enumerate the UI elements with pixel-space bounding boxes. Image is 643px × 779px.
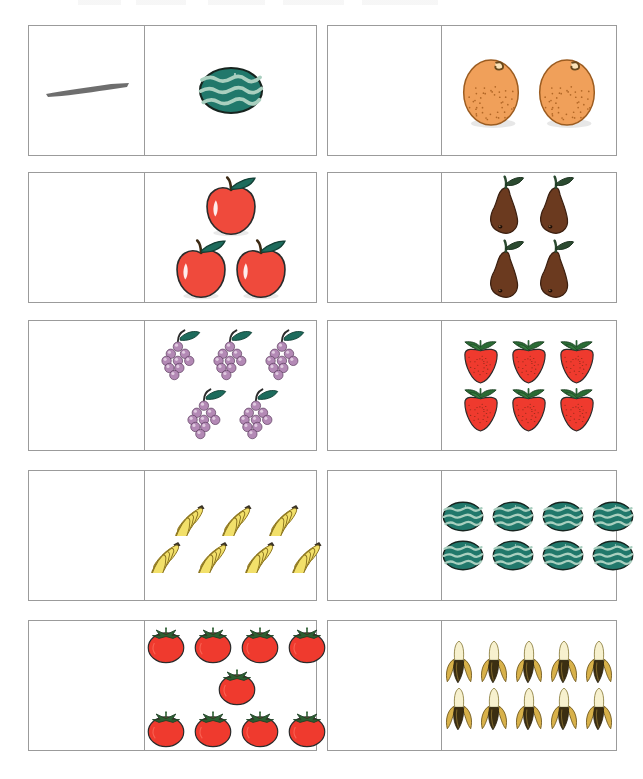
apple-icon bbox=[232, 239, 290, 300]
fruit-row bbox=[443, 639, 615, 685]
counting-card-10 bbox=[327, 620, 617, 751]
tomato-icon bbox=[145, 708, 187, 748]
picture-box-peeled-banana-10 bbox=[442, 621, 616, 750]
answer-box-3[interactable] bbox=[29, 173, 145, 302]
picture-box-orange-2 bbox=[442, 26, 616, 155]
fruit-row bbox=[216, 666, 258, 706]
bananas-icon bbox=[169, 499, 214, 536]
fruit-row bbox=[155, 328, 307, 385]
picture-box-strawberry-6 bbox=[442, 321, 616, 450]
counting-card-8 bbox=[327, 470, 617, 601]
watermelon-icon bbox=[492, 540, 534, 571]
fruit-row bbox=[145, 536, 331, 573]
tomato-icon bbox=[216, 666, 258, 706]
counting-card-4 bbox=[327, 172, 617, 303]
fruit-row bbox=[443, 686, 615, 732]
grapes-icon bbox=[233, 387, 281, 444]
grapes-icon bbox=[207, 328, 255, 385]
picture-box-bananas-7 bbox=[145, 471, 331, 600]
orange-icon bbox=[536, 52, 598, 130]
watermelon-icon bbox=[492, 501, 534, 532]
picture-box-watermelon-8 bbox=[442, 471, 634, 600]
peeled-banana-icon bbox=[478, 686, 510, 732]
peeled-banana-icon bbox=[443, 639, 475, 685]
fruit-row bbox=[145, 708, 328, 748]
watermelon-icon bbox=[592, 540, 634, 571]
strawberry-icon bbox=[459, 386, 503, 434]
answer-box-7[interactable] bbox=[29, 471, 145, 600]
fruit-row bbox=[482, 239, 576, 301]
strawberry-icon bbox=[507, 338, 551, 386]
grapes-icon bbox=[181, 387, 229, 444]
answer-box-10[interactable] bbox=[328, 621, 442, 750]
counting-card-2 bbox=[327, 25, 617, 156]
bananas-icon bbox=[192, 536, 237, 573]
answer-box-8[interactable] bbox=[328, 471, 442, 600]
counting-card-3 bbox=[28, 172, 317, 303]
peeled-banana-icon bbox=[443, 686, 475, 732]
picture-box-apple-3 bbox=[145, 173, 316, 302]
orange-icon bbox=[460, 52, 522, 130]
answer-box-9[interactable] bbox=[29, 621, 145, 750]
answer-box-2[interactable] bbox=[328, 26, 442, 155]
answer-box-5[interactable] bbox=[29, 321, 145, 450]
fruit-row bbox=[460, 52, 598, 130]
counting-card-9 bbox=[28, 620, 317, 751]
peeled-banana-icon bbox=[478, 639, 510, 685]
picture-box-tomato-9 bbox=[145, 621, 328, 750]
tomato-icon bbox=[239, 624, 281, 664]
picture-box-watermelon-1 bbox=[145, 26, 316, 155]
peeled-banana-icon bbox=[583, 639, 615, 685]
apple-icon bbox=[202, 176, 260, 237]
counting-card-7 bbox=[28, 470, 317, 601]
bananas-icon bbox=[286, 536, 331, 573]
watermelon-icon bbox=[542, 501, 584, 532]
fruit-row bbox=[181, 387, 281, 444]
counting-card-1 bbox=[28, 25, 317, 156]
peeled-banana-icon bbox=[583, 686, 615, 732]
strawberry-icon bbox=[555, 386, 599, 434]
apple-icon bbox=[172, 239, 230, 300]
tomato-icon bbox=[286, 624, 328, 664]
fruit-row bbox=[202, 176, 260, 237]
fruit-row bbox=[169, 499, 308, 536]
fruit-row bbox=[442, 540, 634, 571]
pencil-dash-mark bbox=[41, 78, 133, 104]
fruit-row bbox=[198, 66, 264, 115]
grapes-icon bbox=[259, 328, 307, 385]
tomato-icon bbox=[192, 708, 234, 748]
strawberry-icon bbox=[459, 338, 503, 386]
picture-box-pear-4 bbox=[442, 173, 616, 302]
peeled-banana-icon bbox=[548, 686, 580, 732]
pear-icon bbox=[532, 175, 576, 237]
counting-card-6 bbox=[327, 320, 617, 451]
pear-icon bbox=[482, 239, 526, 301]
answer-box-4[interactable] bbox=[328, 173, 442, 302]
peeled-banana-icon bbox=[513, 686, 545, 732]
fruit-row bbox=[442, 501, 634, 532]
grapes-icon bbox=[155, 328, 203, 385]
bananas-icon bbox=[145, 536, 190, 573]
tomato-icon bbox=[192, 624, 234, 664]
bananas-icon bbox=[216, 499, 261, 536]
watermelon-icon bbox=[442, 540, 484, 571]
bananas-icon bbox=[239, 536, 284, 573]
counting-card-5 bbox=[28, 320, 317, 451]
watermelon-icon bbox=[198, 66, 264, 115]
pear-icon bbox=[532, 239, 576, 301]
fruit-row bbox=[145, 624, 328, 664]
worksheet-sheet bbox=[0, 0, 643, 779]
bananas-icon bbox=[263, 499, 308, 536]
watermelon-icon bbox=[442, 501, 484, 532]
peeled-banana-icon bbox=[548, 639, 580, 685]
answer-box-6[interactable] bbox=[328, 321, 442, 450]
fruit-row bbox=[459, 338, 599, 386]
watermelon-icon bbox=[592, 501, 634, 532]
picture-box-grapes-5 bbox=[145, 321, 316, 450]
tomato-icon bbox=[239, 708, 281, 748]
watermelon-icon bbox=[542, 540, 584, 571]
worksheet-grid bbox=[0, 0, 643, 779]
answer-box-1[interactable] bbox=[29, 26, 145, 155]
fruit-row bbox=[459, 386, 599, 434]
peeled-banana-icon bbox=[513, 639, 545, 685]
